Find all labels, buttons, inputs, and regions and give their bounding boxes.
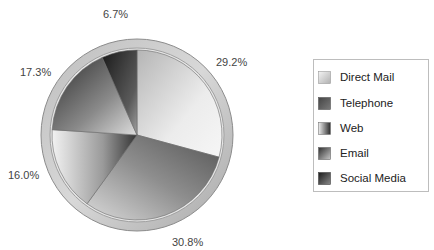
legend-item-direct-mail: Direct Mail: [318, 69, 394, 85]
legend-item-web: Web: [318, 120, 363, 136]
legend-label: Email: [340, 147, 369, 159]
legend-swatch-web: [318, 122, 331, 135]
legend-item-email: Email: [318, 145, 369, 161]
legend-swatch-direct-mail: [318, 71, 331, 84]
legend-label: Web: [340, 122, 363, 134]
legend-label: Direct Mail: [340, 71, 394, 83]
pie-chart: 6.7% 29.2% 17.3% 16.0% 30.8% Direct Mail…: [0, 0, 434, 250]
legend-label: Telephone: [340, 97, 393, 109]
legend-item-telephone: Telephone: [318, 95, 393, 111]
pie-slices: [52, 50, 222, 220]
slice-label-telephone: 30.8%: [172, 236, 203, 248]
legend-item-social-media: Social Media: [318, 170, 406, 186]
slice-label-social-media: 6.7%: [103, 8, 128, 20]
chart-legend: Direct Mail Telephone Web Email Social M…: [313, 59, 429, 192]
legend-swatch-social-media: [318, 172, 331, 185]
slice-label-direct-mail: 29.2%: [216, 56, 247, 68]
slice-label-web: 16.0%: [8, 169, 39, 181]
legend-label: Social Media: [340, 172, 406, 184]
slice-label-email: 17.3%: [20, 66, 51, 78]
legend-swatch-telephone: [318, 97, 331, 110]
legend-swatch-email: [318, 147, 331, 160]
